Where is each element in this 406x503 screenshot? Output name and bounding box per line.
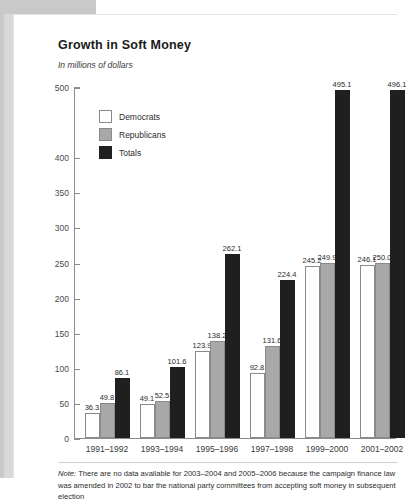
y-tick-mark: [74, 334, 80, 335]
bar-republicans-1993–1994: 52.5: [155, 401, 170, 438]
bar-rect: [250, 373, 265, 438]
y-tick-label: 400: [55, 153, 69, 163]
bar-democrats-1997–1998: 92.8: [250, 373, 265, 438]
bar-totals-1995–1996: 262.1: [225, 254, 240, 438]
bar-rect: [155, 401, 170, 438]
y-tick-mark: [74, 404, 80, 405]
x-tick-label: 1995–1996: [196, 444, 239, 454]
bar-value-label: 224.4: [278, 270, 297, 279]
bar-rect: [170, 367, 185, 438]
x-tick-label: 2001–2002: [361, 444, 404, 454]
bar-totals-1991–1992: 86.1: [115, 378, 130, 438]
plot-area: 050100150200250300350400500 36.349.886.1…: [74, 87, 396, 439]
bar-totals-2001–2002: 496.1: [390, 90, 405, 438]
y-tick-mark: [74, 439, 80, 440]
page-top-corner-block: [0, 0, 96, 14]
y-tick-mark: [74, 88, 80, 89]
page-left-margin-inner: [4, 0, 13, 478]
bar-rect: [360, 265, 375, 438]
y-tick-mark: [74, 299, 80, 300]
bar-value-label: 92.8: [250, 363, 265, 372]
bar-rect: [195, 351, 210, 438]
y-tick-label: 0: [64, 434, 69, 444]
bar-democrats-1995–1996: 123.9: [195, 351, 210, 438]
bar-democrats-1993–1994: 49.1: [140, 404, 155, 438]
bar-group: 92.8131.6224.41997–1998: [249, 280, 296, 438]
bar-republicans-1997–1998: 131.6: [265, 346, 280, 438]
bar-value-label: 36.3: [85, 403, 100, 412]
bar-totals-1999–2000: 495.1: [335, 90, 350, 438]
bar-rect: [305, 266, 320, 438]
bar-value-label: 262.1: [223, 244, 242, 253]
bar-value-label: 495.1: [333, 80, 352, 89]
y-tick-mark: [74, 264, 80, 265]
bar-rect: [140, 404, 155, 438]
y-tick-label: 500: [55, 83, 69, 93]
bar-republicans-1991–1992: 49.8: [100, 403, 115, 438]
footnote-note-prefix: Note:: [58, 469, 76, 478]
bar-value-label: 496.1: [388, 80, 406, 89]
bar-rect: [335, 90, 350, 438]
y-tick-label: 150: [55, 329, 69, 339]
chart-title: Growth in Soft Money: [58, 38, 191, 52]
bar-value-label: 49.8: [100, 393, 115, 402]
bar-rect: [115, 378, 130, 438]
bar-democrats-1999–2000: 245.2: [305, 266, 320, 438]
y-tick-label: 350: [55, 188, 69, 198]
y-tick-label: 300: [55, 223, 69, 233]
bar-rect: [85, 413, 100, 438]
bar-value-label: 86.1: [115, 368, 130, 377]
y-tick-label: 50: [60, 399, 69, 409]
chart-subtitle: In millions of dollars: [58, 60, 133, 70]
bar-group: 246.1250.0496.12001–2002: [359, 90, 406, 438]
y-tick-label: 200: [55, 294, 69, 304]
bar-republicans-1995–1996: 138.2: [210, 341, 225, 438]
bar-value-label: 52.5: [155, 391, 170, 400]
y-tick-label: 250: [55, 259, 69, 269]
x-tick-label: 1993–1994: [141, 444, 184, 454]
footnote-divider: [58, 462, 398, 463]
bar-rect: [280, 280, 295, 438]
footnote-text: There are no data available for 2003–200…: [58, 469, 396, 501]
x-tick-label: 1999–2000: [306, 444, 349, 454]
y-tick-mark: [74, 369, 80, 370]
y-tick-label: 100: [55, 364, 69, 374]
x-axis-baseline: [74, 438, 396, 439]
bar-group: 245.2249.9495.11999–2000: [304, 90, 351, 438]
bar-value-label: 49.1: [140, 394, 155, 403]
bar-rect: [225, 254, 240, 438]
chart-card: Growth in Soft Money In millions of doll…: [13, 14, 397, 478]
bar-rect: [390, 90, 405, 438]
bar-rect: [320, 263, 335, 438]
y-tick-mark: [74, 193, 80, 194]
bar-democrats-2001–2002: 246.1: [360, 265, 375, 438]
bar-totals-1997–1998: 224.4: [280, 280, 295, 438]
y-tick-mark: [74, 228, 80, 229]
bar-totals-1993–1994: 101.6: [170, 367, 185, 438]
bar-group: 36.349.886.11991–1992: [84, 378, 131, 438]
y-tick-mark: [74, 158, 80, 159]
bar-value-label: 101.6: [168, 357, 187, 366]
bar-rect: [210, 341, 225, 438]
x-tick-label: 1997–1998: [251, 444, 294, 454]
bar-group: 123.9138.2262.11995–1996: [194, 254, 241, 438]
bar-rect: [100, 403, 115, 438]
bar-group: 49.152.5101.61993–1994: [139, 367, 186, 438]
x-tick-label: 1991–1992: [86, 444, 129, 454]
bar-republicans-2001–2002: 250.0: [375, 263, 390, 439]
bar-rect: [375, 263, 390, 439]
bar-democrats-1991–1992: 36.3: [85, 413, 100, 438]
chart-footnote: Note: There are no data available for 20…: [58, 468, 402, 503]
bar-rect: [265, 346, 280, 438]
bar-republicans-1999–2000: 249.9: [320, 263, 335, 438]
